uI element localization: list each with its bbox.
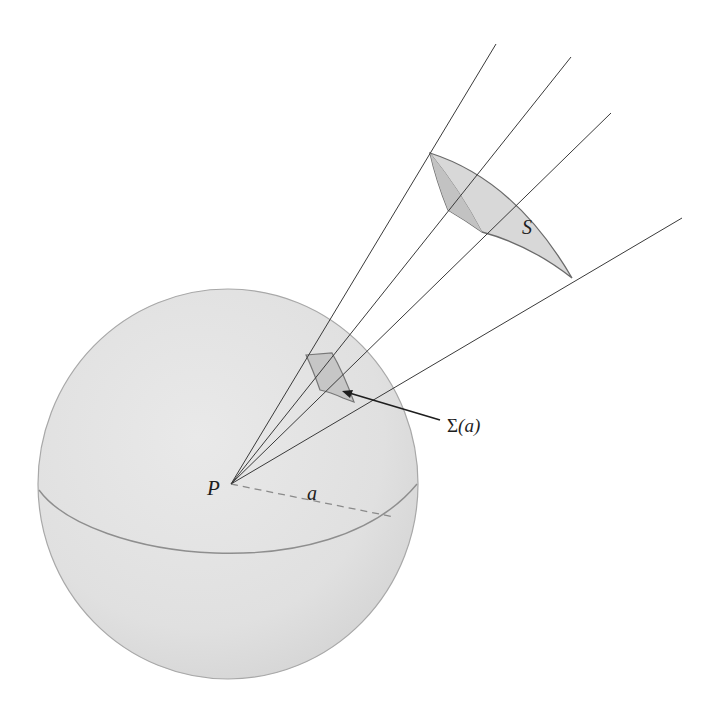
label-sigma-a: Σ(a) <box>447 415 480 437</box>
label-center-p: P <box>206 476 220 500</box>
solid-angle-diagram: P a S Σ(a) <box>0 0 724 715</box>
label-sigma-argument: (a) <box>458 415 480 437</box>
sphere <box>38 289 418 679</box>
label-surface-s: S <box>522 216 532 238</box>
label-radius-a: a <box>307 482 317 504</box>
label-sigma-symbol: Σ <box>447 415 458 436</box>
